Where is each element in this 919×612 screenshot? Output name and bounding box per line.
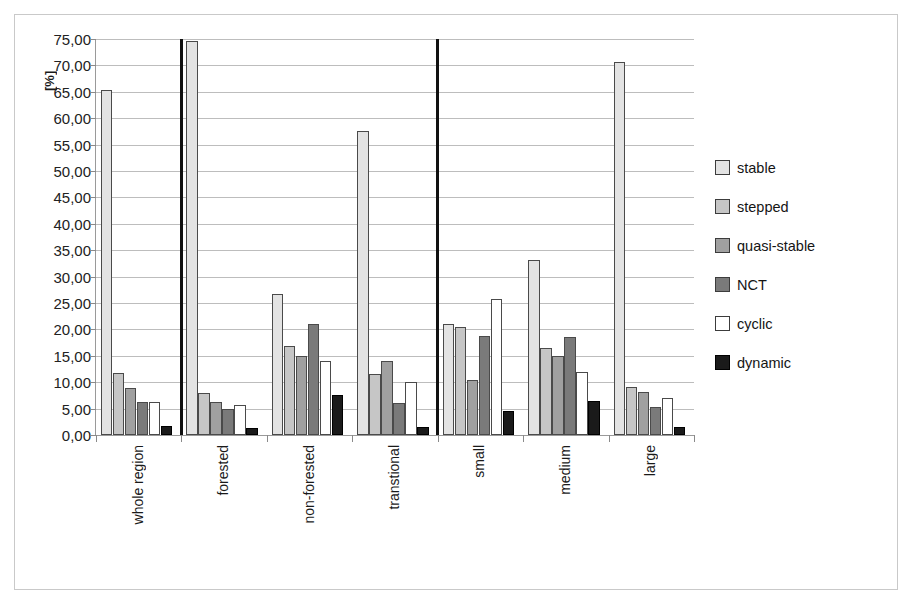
bar-stable[interactable]: [272, 294, 283, 436]
x-tick-mark: [694, 435, 695, 442]
bar-stepped[interactable]: [198, 393, 209, 435]
y-tick-label: 20,00: [53, 322, 91, 337]
bar-stepped[interactable]: [369, 374, 380, 435]
x-axis-label-non-forested: non-forested: [301, 445, 317, 524]
bar-NCT[interactable]: [650, 407, 661, 435]
bar-groups: [96, 39, 694, 435]
bar-group: [352, 39, 437, 435]
bar-dynamic[interactable]: [246, 428, 257, 435]
y-tick-label: 70,00: [53, 58, 91, 73]
bar-NCT[interactable]: [564, 337, 575, 435]
bar-cyclic[interactable]: [149, 402, 160, 435]
y-tick-label: 50,00: [53, 164, 91, 179]
legend-swatch-icon: [715, 238, 730, 253]
y-tick-label: 75,00: [53, 32, 91, 47]
plot-region: [95, 39, 694, 436]
bar-cyclic[interactable]: [491, 299, 502, 435]
bar-stable[interactable]: [443, 324, 454, 435]
y-tick-label: 25,00: [53, 296, 91, 311]
legend-item-dynamic[interactable]: dynamic: [715, 343, 890, 382]
bar-stepped[interactable]: [455, 327, 466, 435]
legend-item-cyclic[interactable]: cyclic: [715, 304, 890, 343]
bar-group: [96, 39, 181, 435]
legend-label: dynamic: [737, 355, 791, 371]
bar-quasi-stable[interactable]: [210, 402, 221, 435]
legend-item-stepped[interactable]: stepped: [715, 187, 890, 226]
y-tick-label: 60,00: [53, 111, 91, 126]
bar-quasi-stable[interactable]: [381, 361, 392, 435]
x-axis-label-medium: medium: [557, 445, 573, 495]
y-axis-tick-labels: 0,005,0010,0015,0020,0025,0030,0035,0040…: [35, 39, 91, 439]
bar-quasi-stable[interactable]: [296, 356, 307, 435]
legend-label: cyclic: [737, 316, 772, 332]
bar-group: [609, 39, 694, 435]
legend-swatch-icon: [715, 160, 730, 175]
bar-NCT[interactable]: [222, 409, 233, 435]
y-tick-label: 65,00: [53, 84, 91, 99]
x-axis-label-whole-region: whole region: [130, 445, 146, 524]
bar-dynamic[interactable]: [332, 395, 343, 435]
bar-stable[interactable]: [357, 131, 368, 435]
x-axis-category-labels: whole regionforestednon-forestedtranstio…: [95, 439, 693, 589]
x-axis-label-forested: forested: [215, 445, 231, 496]
bar-quasi-stable[interactable]: [552, 356, 563, 435]
bar-quasi-stable[interactable]: [467, 380, 478, 435]
y-tick-label: 45,00: [53, 190, 91, 205]
bar-dynamic[interactable]: [417, 427, 428, 435]
bar-cyclic[interactable]: [234, 405, 245, 435]
bar-stepped[interactable]: [626, 387, 637, 435]
y-tick-label: 35,00: [53, 243, 91, 258]
bar-group: [181, 39, 266, 435]
legend-swatch-icon: [715, 355, 730, 370]
bar-stable[interactable]: [614, 62, 625, 435]
legend-label: stepped: [737, 199, 789, 215]
y-tick-label: 5,00: [62, 401, 91, 416]
bar-NCT[interactable]: [137, 402, 148, 435]
bar-quasi-stable[interactable]: [125, 388, 136, 435]
bar-dynamic[interactable]: [161, 426, 172, 435]
bar-dynamic[interactable]: [588, 401, 599, 435]
bar-group: [523, 39, 608, 435]
legend-item-NCT[interactable]: NCT: [715, 265, 890, 304]
bar-cyclic[interactable]: [662, 398, 673, 435]
y-tick-label: 15,00: [53, 348, 91, 363]
bar-stepped[interactable]: [540, 348, 551, 435]
legend-label: stable: [737, 160, 776, 176]
legend-item-quasi-stable[interactable]: quasi-stable: [715, 226, 890, 265]
bar-NCT[interactable]: [308, 324, 319, 435]
bar-NCT[interactable]: [479, 336, 490, 435]
legend-item-stable[interactable]: stable: [715, 148, 890, 187]
bar-stable[interactable]: [101, 90, 112, 435]
chart-area: [%] 0,005,0010,0015,0020,0025,0030,0035,…: [15, 15, 899, 591]
bar-dynamic[interactable]: [674, 427, 685, 435]
bar-cyclic[interactable]: [320, 361, 331, 435]
chart-legend: stablesteppedquasi-stableNCTcyclicdynami…: [715, 148, 890, 382]
bar-group: [438, 39, 523, 435]
bar-stepped[interactable]: [284, 346, 295, 435]
legend-swatch-icon: [715, 316, 730, 331]
y-tick-label: 0,00: [62, 428, 91, 443]
x-axis-label-large: large: [642, 445, 658, 476]
chart-frame: [%] 0,005,0010,0015,0020,0025,0030,0035,…: [14, 14, 898, 590]
y-tick-label: 10,00: [53, 375, 91, 390]
legend-swatch-icon: [715, 199, 730, 214]
legend-label: NCT: [737, 277, 767, 293]
bar-NCT[interactable]: [393, 403, 404, 435]
y-tick-label: 55,00: [53, 137, 91, 152]
bar-group: [267, 39, 352, 435]
bar-stable[interactable]: [528, 260, 539, 435]
bar-cyclic[interactable]: [576, 372, 587, 435]
bar-stable[interactable]: [186, 41, 197, 435]
legend-swatch-icon: [715, 277, 730, 292]
bar-quasi-stable[interactable]: [638, 392, 649, 435]
legend-label: quasi-stable: [737, 238, 815, 254]
bar-cyclic[interactable]: [405, 382, 416, 435]
y-tick-label: 40,00: [53, 216, 91, 231]
bar-stepped[interactable]: [113, 373, 124, 435]
x-axis-label-transtional: transtional: [386, 445, 402, 510]
bar-dynamic[interactable]: [503, 411, 514, 435]
y-tick-label: 30,00: [53, 269, 91, 284]
x-axis-label-small: small: [471, 445, 487, 478]
